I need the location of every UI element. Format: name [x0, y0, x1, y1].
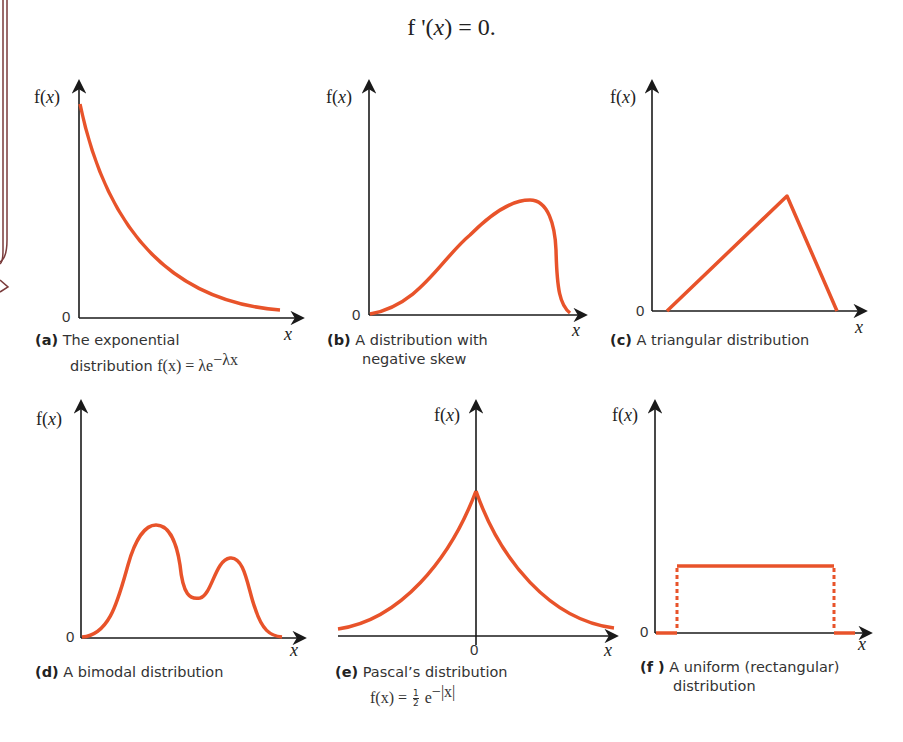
panel-a-exponential: f(x) 0 x [34, 82, 302, 344]
svg-text:x: x [854, 317, 863, 337]
panel-d-bimodal: f(x) 0 x [36, 402, 304, 660]
svg-text:x: x [603, 640, 612, 660]
caption-e: (e) Pascal’s distribution f(x) = 12 e−|x… [335, 663, 508, 708]
svg-text:f(x): f(x) [326, 87, 352, 108]
panel-f-uniform: f(x) 0 x [612, 402, 870, 654]
panel-b-negative-skew: f(x) 0 x [326, 82, 585, 340]
one-half-fraction: 12 [413, 689, 419, 708]
caption-b: (b) A distribution with negative skew [327, 331, 488, 369]
panel-c-triangular: f(x) 0 x [610, 82, 865, 337]
svg-text:0: 0 [352, 306, 360, 323]
caption-d: (d) A bimodal distribution [35, 663, 223, 682]
svg-text:f(x): f(x) [34, 87, 60, 108]
svg-text:x: x [283, 324, 292, 344]
svg-text:f(x): f(x) [36, 409, 62, 430]
margin-bracket [0, 0, 8, 292]
svg-text:f(x): f(x) [612, 405, 638, 426]
svg-text:x: x [857, 634, 866, 654]
caption-c: (c) A triangular distribution [610, 331, 809, 350]
svg-text:0: 0 [470, 641, 478, 658]
svg-text:0: 0 [66, 628, 74, 645]
svg-text:f(x): f(x) [610, 87, 636, 108]
svg-text:x: x [571, 320, 580, 340]
svg-text:0: 0 [62, 308, 70, 325]
svg-text:f(x): f(x) [434, 405, 460, 426]
figure-page: f '(x) = 0. f(x) 0 x f(x) 0 [0, 0, 903, 742]
svg-text:0: 0 [636, 302, 644, 319]
caption-f: (f ) A uniform (rectangular) distributio… [640, 658, 839, 696]
svg-text:0: 0 [640, 623, 648, 640]
caption-a: (a) The exponential distribution f(x) = … [35, 331, 238, 376]
svg-text:x: x [289, 640, 298, 660]
